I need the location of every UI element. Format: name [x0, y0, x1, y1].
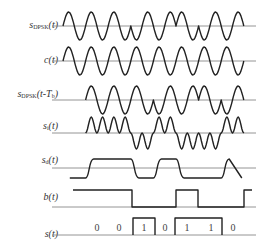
bit-label: 0	[231, 222, 236, 233]
bit-labels: 0010110	[95, 222, 236, 233]
bit-label: 0	[117, 222, 122, 233]
bit-label: 0	[95, 222, 100, 233]
bit-label: 1	[142, 222, 147, 233]
s-d-waveform	[70, 159, 242, 178]
bit-label: 1	[209, 222, 214, 233]
bit-label: 0	[163, 222, 168, 233]
bit-label: 1	[185, 222, 190, 233]
b-waveform	[73, 190, 252, 207]
waveform-diagram: 0010110	[0, 0, 268, 251]
